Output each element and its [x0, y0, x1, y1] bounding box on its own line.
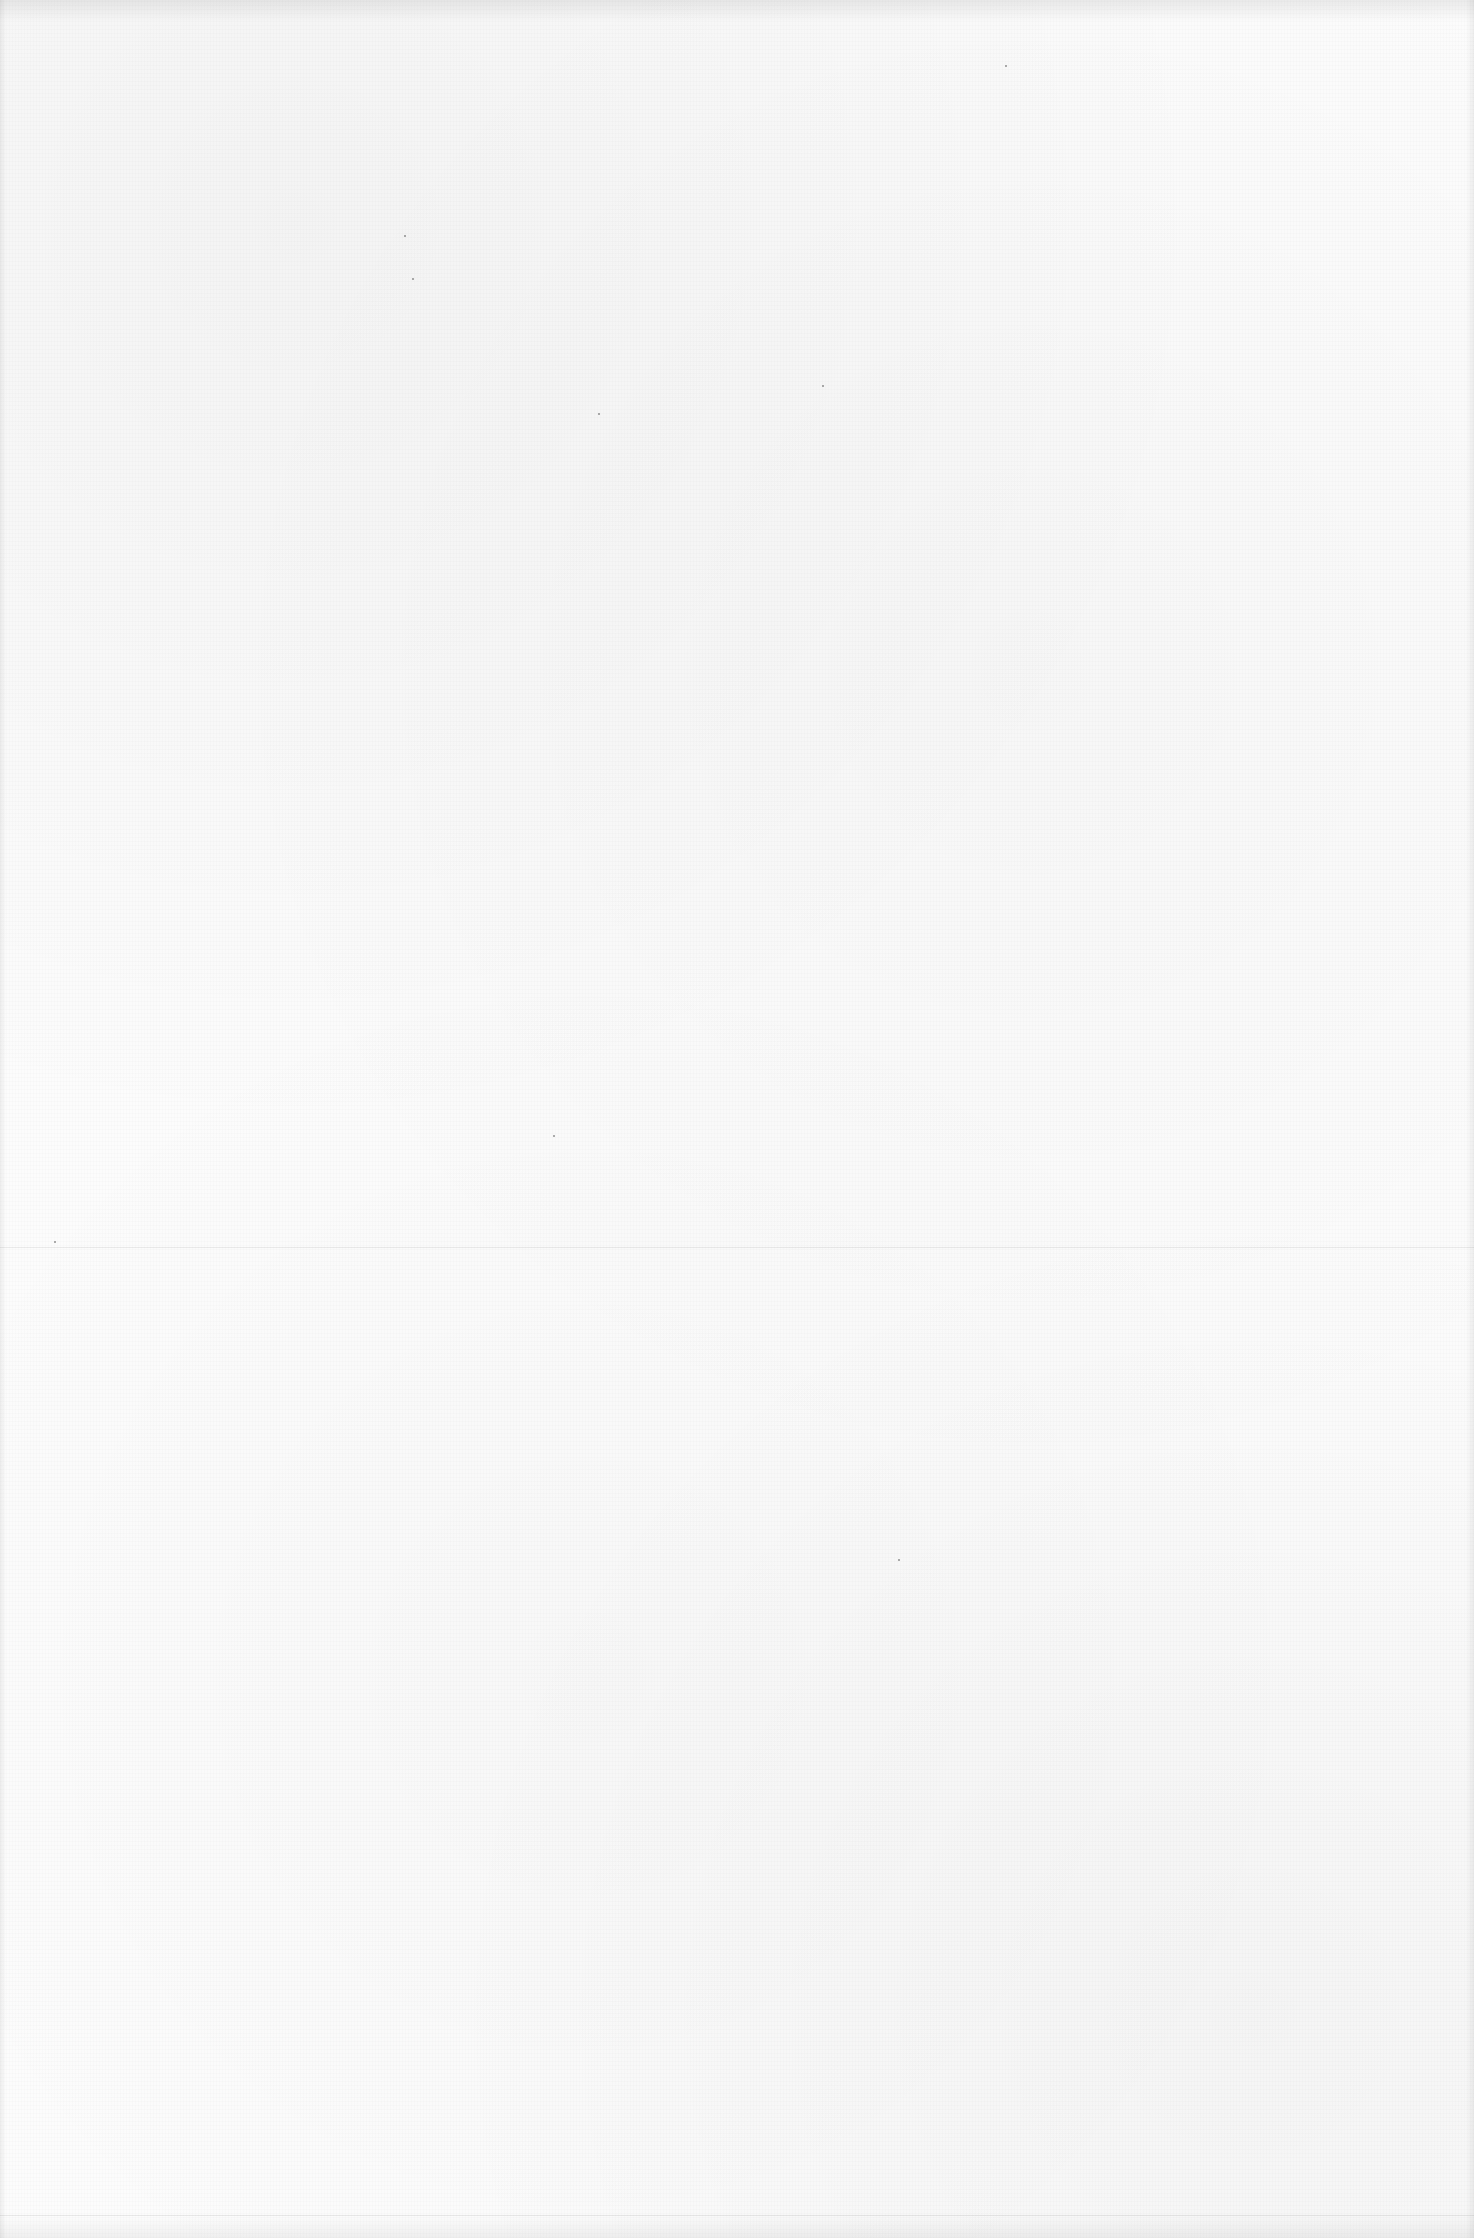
paper-speck	[553, 1135, 555, 1137]
paper-speck	[822, 385, 824, 387]
blank-document-page	[0, 0, 1474, 2238]
scan-top-edge-shadow	[0, 0, 1474, 22]
paper-speck	[1005, 65, 1007, 67]
scan-right-edge-shadow	[1466, 0, 1474, 2238]
paper-speck	[54, 1241, 56, 1243]
paper-speck	[404, 235, 406, 237]
paper-fold-line	[0, 1247, 1474, 1248]
scan-left-edge-shadow	[0, 0, 6, 2238]
scan-bottom-edge-shadow	[0, 2216, 1474, 2238]
paper-speck	[412, 278, 414, 280]
paper-speck	[898, 1559, 900, 1561]
paper-speck	[598, 413, 600, 415]
